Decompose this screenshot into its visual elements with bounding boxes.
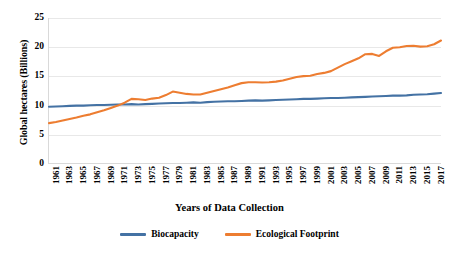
legend-label: Biocapacity (151, 229, 199, 239)
x-tick-label: 2015 (423, 166, 432, 184)
x-tick-label: 1999 (313, 166, 322, 184)
y-tick-label: 15 (22, 72, 44, 82)
y-tick-label: 10 (22, 101, 44, 111)
x-tick-label: 2011 (395, 166, 404, 184)
x-tick-label: 1965 (79, 166, 88, 184)
x-tick-label: 2003 (340, 166, 349, 184)
x-tick-label: 2017 (437, 166, 446, 184)
x-tick-label: 1961 (52, 166, 61, 184)
x-tick-label: 2005 (354, 166, 363, 184)
x-tick-label: 1973 (134, 166, 143, 184)
x-tick-label: 1997 (299, 166, 308, 184)
y-tick-label: 5 (22, 130, 44, 140)
x-tick-label: 1991 (258, 166, 267, 184)
legend-swatch-icon (120, 233, 146, 236)
x-tick-label: 1975 (148, 166, 157, 184)
legend-item-biocapacity[interactable]: Biocapacity (120, 229, 199, 239)
x-tick-label: 1985 (217, 166, 226, 184)
series-layer (49, 18, 441, 164)
x-tick-label: 1987 (230, 166, 239, 184)
x-tick-label: 1967 (93, 166, 102, 184)
series-line-ecological-footprint (49, 40, 441, 123)
y-tick-label: 20 (22, 42, 44, 52)
x-tick-label: 2013 (409, 166, 418, 184)
x-tick-label: 2001 (327, 166, 336, 184)
x-tick-label: 1981 (189, 166, 198, 184)
series-line-biocapacity (49, 93, 441, 107)
x-tick-label: 1995 (285, 166, 294, 184)
x-tick-label: 1989 (244, 166, 253, 184)
x-tick-label: 1977 (162, 166, 171, 184)
x-tick-label: 1983 (203, 166, 212, 184)
x-tick-label: 2009 (382, 166, 391, 184)
x-tick-label: 1979 (175, 166, 184, 184)
x-tick-label: 1969 (107, 166, 116, 184)
line-chart: Global hectares (Billions) 0510152025 19… (0, 0, 459, 254)
legend-swatch-icon (225, 233, 251, 236)
x-tick-label: 2007 (368, 166, 377, 184)
x-tick-label: 1993 (272, 166, 281, 184)
chart-legend: BiocapacityEcological Footprint (0, 229, 459, 239)
x-axis-title: Years of Data Collection (0, 202, 459, 213)
x-tick-label: 1963 (65, 166, 74, 184)
x-tick-label: 1971 (120, 166, 129, 184)
x-axis-tick-labels: 1961196319651967196919711973197519771979… (48, 166, 440, 200)
legend-label: Ecological Footprint (256, 229, 339, 239)
y-tick-label: 0 (22, 159, 44, 169)
y-tick-label: 25 (22, 13, 44, 23)
legend-item-ecological-footprint[interactable]: Ecological Footprint (225, 229, 339, 239)
y-axis-tick-labels: 0510152025 (22, 18, 44, 164)
plot-area (48, 18, 441, 164)
